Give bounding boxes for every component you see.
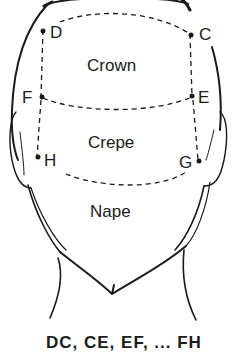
figure-caption: DC, CE, EF, ... FH — [46, 333, 202, 353]
line-CE — [190, 34, 192, 96]
left-ear-inner — [20, 132, 24, 175]
point-label-G: G — [179, 154, 192, 171]
neck-line-right — [183, 250, 196, 320]
point-C-marker — [189, 33, 194, 38]
line-DF — [41, 30, 43, 96]
point-F-marker — [40, 95, 45, 100]
nape-v-hairline — [60, 246, 186, 294]
head-outline-right — [212, 47, 221, 130]
point-label-E: E — [198, 89, 209, 106]
line-EG — [193, 100, 198, 160]
neck-left-inner — [31, 188, 66, 250]
neck-right-outer — [175, 186, 204, 250]
zone-label-nape: Nape — [90, 203, 131, 220]
right-ear — [204, 112, 227, 186]
point-label-D: D — [50, 24, 62, 41]
left-ear — [10, 112, 31, 188]
point-label-H: H — [44, 152, 56, 169]
line-FH — [37, 100, 41, 157]
line-DC — [60, 13, 190, 34]
neck-line-left — [50, 258, 60, 318]
point-H-marker — [36, 155, 41, 160]
head-outline-left — [12, 4, 48, 160]
line-FE — [43, 97, 192, 110]
right-ear-inner — [206, 130, 214, 160]
point-label-F: F — [22, 89, 32, 106]
point-G-marker — [197, 159, 202, 164]
zone-label-crown: Crown — [87, 57, 136, 74]
zone-label-crepe: Crepe — [88, 134, 134, 151]
neck-right-inner — [186, 182, 210, 246]
point-label-C: C — [199, 26, 211, 43]
head-outline-top — [48, 0, 188, 4]
line-HG — [66, 172, 186, 185]
hair-tuft-left — [44, 2, 52, 6]
point-E-marker — [190, 94, 195, 99]
point-D-marker — [41, 29, 46, 34]
